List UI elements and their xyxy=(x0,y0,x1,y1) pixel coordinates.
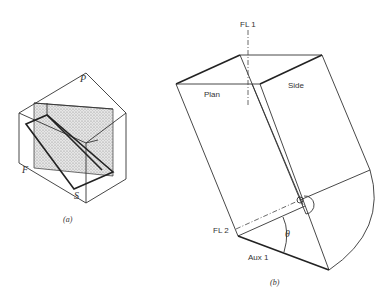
label-p: P xyxy=(79,73,86,84)
inner-slant-3 xyxy=(260,84,329,270)
label-s: S xyxy=(74,190,79,201)
aux-line xyxy=(238,206,305,236)
top-edge-right xyxy=(260,55,322,84)
figure-a-cube: P F S (a) xyxy=(19,73,126,224)
diagram-canvas: P F S (a) FL 1 FL 2 θ xyxy=(0,0,392,300)
figure-b-projection: FL 1 FL 2 θ Plan Side Aux 1 (b) xyxy=(176,20,374,287)
caption-a: (a) xyxy=(63,215,73,224)
right-slant xyxy=(322,55,370,170)
left-slant xyxy=(176,84,238,236)
junction-arc xyxy=(304,196,314,214)
label-f: F xyxy=(21,164,29,175)
top-edge-left xyxy=(176,55,240,84)
shaded-plane xyxy=(34,103,113,176)
fl1-label: FL 1 xyxy=(240,20,256,29)
side-label: Side xyxy=(288,81,305,90)
plan-label: Plan xyxy=(204,90,220,99)
aux-label: Aux 1 xyxy=(248,253,269,262)
caption-b: (b) xyxy=(270,278,280,287)
angle-theta: θ xyxy=(285,228,290,239)
fl2-label: FL 2 xyxy=(213,226,229,235)
fold-line-2 xyxy=(236,200,300,229)
aux-line-right xyxy=(300,170,370,200)
inner-slant-2 xyxy=(252,84,306,214)
